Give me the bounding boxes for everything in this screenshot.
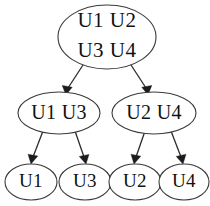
edge-mid-left-to-leaf-u3 xyxy=(75,131,89,164)
edge-mid-left-to-leaf-u1 xyxy=(28,131,43,164)
edge-line xyxy=(68,65,83,88)
node-label-mid-left: U1 U3 xyxy=(31,101,86,123)
tree-node-leaf-u3[interactable]: U3 xyxy=(59,164,111,200)
node-label-root-line1: U1 U2 xyxy=(77,8,136,32)
arrowhead-icon xyxy=(28,154,38,164)
edge-line xyxy=(75,131,84,157)
node-label-mid-right: U2 U4 xyxy=(126,101,181,123)
arrowhead-icon xyxy=(79,154,89,164)
edge-root-to-mid-right xyxy=(131,65,152,95)
tree-node-leaf-u4[interactable]: U4 xyxy=(159,164,209,200)
node-label-leaf-u3: U3 xyxy=(73,170,97,191)
partition-tree-diagram: U1 U2 U3 U4 U1 U3 U2 U4 U1 U3 U2 xyxy=(0,0,210,206)
node-label-leaf-u4: U4 xyxy=(172,170,196,191)
tree-node-mid-right[interactable]: U2 U4 xyxy=(112,92,196,134)
edge-line xyxy=(171,131,181,157)
tree-node-root[interactable]: U1 U2 U3 U4 xyxy=(58,5,156,69)
arrowhead-icon xyxy=(176,154,186,164)
edge-mid-right-to-leaf-u2 xyxy=(131,131,145,164)
tree-canvas: U1 U2 U3 U4 U1 U3 U2 U4 U1 U3 U2 xyxy=(0,0,210,206)
tree-node-mid-left[interactable]: U1 U3 xyxy=(18,92,100,134)
arrowhead-icon xyxy=(131,154,141,164)
tree-node-leaf-u1[interactable]: U1 xyxy=(5,164,57,200)
edge-mid-right-to-leaf-u4 xyxy=(171,131,186,164)
node-label-leaf-u1: U1 xyxy=(19,170,43,191)
node-label-leaf-u2: U2 xyxy=(123,170,147,191)
node-label-root-line2: U3 U4 xyxy=(77,38,136,62)
edge-line xyxy=(131,65,146,88)
edge-root-to-mid-left xyxy=(62,65,83,95)
tree-node-leaf-u2[interactable]: U2 xyxy=(109,164,161,200)
edge-line xyxy=(136,131,145,157)
edge-line xyxy=(33,131,43,157)
